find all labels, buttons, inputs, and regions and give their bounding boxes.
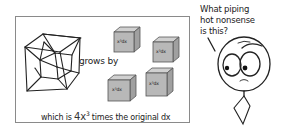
cube-label-2: x³dx	[156, 49, 166, 54]
comic-stage: x³dx x³dx x³dx x³dx grows by which is 4x…	[0, 0, 285, 131]
grows-by-text: grows by	[79, 56, 118, 66]
caption-text: which is 4x3 times the original dx	[41, 110, 170, 122]
cube-label-1: x³dx	[117, 39, 127, 44]
caption-coefficient: 4x	[74, 111, 86, 122]
caption-after: times the original dx	[90, 113, 171, 122]
speech-bubble-text: What piping hot nonsense is this?	[200, 4, 255, 37]
caption-before: which is	[41, 113, 74, 122]
cube-label-3: x³dx	[112, 87, 122, 92]
cube-label-4: x³dx	[149, 81, 159, 86]
